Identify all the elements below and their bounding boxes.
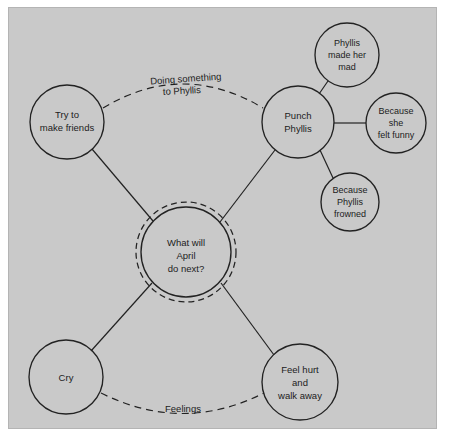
connector-center-to-cry [91,283,152,351]
connector-center-to-feel-hurt [221,283,274,355]
node-phyllis-made-her-mad[interactable]: Phyllis made her mad [315,23,379,87]
edge-label-feelings-text: Feelings [165,403,201,414]
node-try-to-make-friends[interactable]: Try to make friends [30,85,104,159]
connector-punch-phyllis-to-center [220,150,275,222]
node-cry[interactable]: Cry [29,340,103,414]
node-punch-phyllis[interactable]: Punch Phyllis [262,86,334,158]
edge-label-feelings: Feelings [165,403,201,414]
connector-group [91,81,366,355]
node-label-phyllis-made-her-mad-line2: made her [328,50,366,60]
node-feel-hurt-and-walk-away[interactable]: Feel hurt and walk away [262,344,338,420]
connector-punch-phyllis-to-because-phyllis-frowned [320,150,333,178]
node-label-punch-phyllis-line2: Phyllis [284,123,312,134]
edge-label-doing-something-line2: to Phyllis [163,84,202,97]
node-because-she-felt-funny[interactable]: Because she felt funny [366,93,426,153]
node-label-phyllis-made-her-mad-line1: Phyllis [334,38,361,48]
node-label-because-she-felt-funny-line3: felt funny [378,130,415,140]
node-because-phyllis-frowned[interactable]: Because Phyllis frowned [321,173,379,231]
node-label-because-phyllis-frowned-line1: Because [332,185,367,195]
node-label-central-question-line3: do next? [168,263,204,274]
node-label-because-she-felt-funny-line2: she [389,118,404,128]
node-central-question[interactable]: What will April do next? [136,202,236,302]
node-label-because-phyllis-frowned-line2: Phyllis [337,197,364,207]
node-label-try-to-make-friends-line1: Try to [55,109,79,120]
edge-label-doing-something-to-phyllis: Doing something to Phyllis [150,71,222,97]
node-label-feel-hurt-and-walk-away-line1: Feel hurt [281,364,319,375]
node-label-central-question-line2: April [176,250,195,261]
diagram-page: Try to make friends Punch Phyllis Phylli… [0,0,450,442]
node-label-punch-phyllis-line1: Punch [285,110,312,121]
connector-try-to-make-friends-to-center [92,149,153,221]
concept-map-diagram: Try to make friends Punch Phyllis Phylli… [0,0,450,442]
node-label-feel-hurt-and-walk-away-line3: walk away [277,390,322,401]
node-label-phyllis-made-her-mad-line3: mad [338,62,356,72]
node-label-cry-line1: Cry [59,372,74,383]
node-label-central-question-line1: What will [167,237,205,248]
node-label-try-to-make-friends-line2: make friends [40,122,95,133]
node-label-because-she-felt-funny-line1: Because [378,106,413,116]
connector-punch-phyllis-to-phyllis-made-her-mad [319,81,328,94]
node-label-feel-hurt-and-walk-away-line2: and [292,377,308,388]
node-label-because-phyllis-frowned-line3: frowned [334,209,366,219]
